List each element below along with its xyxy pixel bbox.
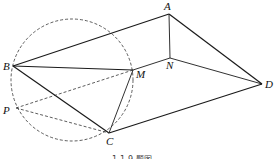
geometry-figure: A B C D M N P 1-1-9 题图 [0, 0, 274, 159]
label-A: A [163, 0, 171, 12]
segment-AN [169, 14, 170, 58]
label-B: B [3, 60, 10, 72]
figure-caption: 1-1-9 题图 [112, 155, 152, 159]
segment-CB [13, 66, 109, 133]
label-D: D [264, 78, 273, 90]
label-M: M [135, 68, 146, 80]
segment-PM [16, 70, 133, 108]
segment-AD [169, 14, 262, 84]
label-P: P [2, 104, 10, 116]
segment-ND [170, 58, 262, 84]
segment-BM [13, 66, 133, 70]
label-N: N [165, 59, 174, 71]
label-C: C [106, 135, 114, 147]
segment-PC [16, 108, 109, 133]
